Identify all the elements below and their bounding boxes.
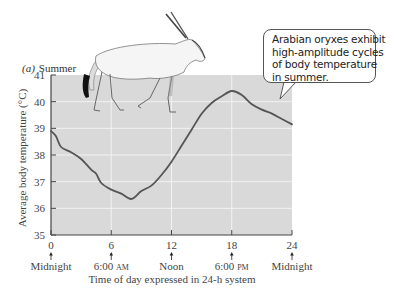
x-tick-label: 0	[48, 239, 54, 251]
callout-line: Arabian oryxes exhibit	[272, 33, 375, 46]
y-tick-label: 35	[34, 229, 46, 241]
callout-line: high-amplitude cycles	[272, 46, 375, 59]
x-axis-title: Time of day expressed in 24-h system	[88, 273, 255, 285]
panel-title: (a)Summer	[22, 62, 76, 75]
x-tick-label: 18	[226, 239, 238, 251]
callout-line: in summer.	[272, 71, 375, 84]
annotation-callout: Arabian oryxes exhibit high-amplitude cy…	[263, 29, 376, 83]
y-tick-label: 36	[34, 202, 46, 214]
x-time-label: Noon	[159, 260, 184, 272]
y-tick-label: 37	[34, 176, 46, 188]
callout-line: of body temperature	[272, 58, 375, 71]
y-axis-title: Average body temperature (°C)	[16, 89, 29, 228]
x-time-label: Midnight	[31, 260, 72, 272]
x-tick-label: 12	[166, 239, 177, 251]
y-tick-label: 39	[34, 122, 46, 134]
x-tick-label: 24	[287, 239, 299, 251]
x-time-label: 6:00 AM	[94, 260, 129, 272]
x-tick-label: 6	[109, 239, 115, 251]
x-time-label: 6:00 PM	[215, 260, 249, 272]
x-time-label: Midnight	[272, 260, 313, 272]
y-tick-label: 40	[34, 96, 46, 108]
y-tick-label: 38	[34, 149, 46, 161]
